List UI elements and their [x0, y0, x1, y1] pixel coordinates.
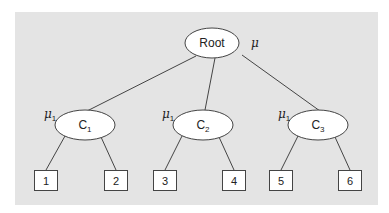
- cluster-c3-label: C3: [311, 118, 324, 134]
- tree-edges: [0, 0, 389, 213]
- leaf-node-2: 2: [104, 170, 128, 191]
- cluster-c3-subscript: 3: [320, 125, 324, 134]
- cluster-c2-subscript: 2: [205, 125, 209, 134]
- mu-symbol: μ: [44, 107, 52, 121]
- root-label: Root: [199, 36, 224, 50]
- edge-c1-1: [46, 136, 65, 170]
- leaf-node-1: 1: [34, 170, 58, 191]
- edge-c3-5: [281, 136, 298, 170]
- leaf-node-5: 5: [269, 170, 293, 191]
- cluster-c1-subscript: 1: [87, 125, 91, 134]
- edge-c2-4: [219, 137, 234, 170]
- root-param-label: μ: [251, 36, 259, 50]
- cluster-c1-label: C1: [78, 118, 91, 134]
- cluster-c1-param: μ1: [44, 107, 56, 123]
- edge-c2-3: [165, 136, 182, 170]
- mu-subscript: 1: [170, 114, 174, 123]
- cluster-c2-param: μ1: [162, 107, 174, 123]
- cluster-c3-letter: C: [311, 118, 320, 132]
- cluster-c1-letter: C: [78, 118, 87, 132]
- mu-symbol: μ: [278, 107, 286, 121]
- leaf-node-4: 4: [222, 170, 246, 191]
- cluster-c2-letter: C: [196, 118, 205, 132]
- cluster-c3-param: μ1: [278, 107, 290, 123]
- mu-subscript: 1: [286, 114, 290, 123]
- cluster-c2-label: C2: [196, 118, 209, 134]
- mu-symbol: μ: [162, 107, 170, 121]
- edge-root-c1: [87, 56, 196, 111]
- leaf-node-6: 6: [338, 170, 362, 191]
- edge-c1-2: [101, 137, 116, 170]
- edge-root-c2: [205, 58, 215, 110]
- mu-subscript: 1: [52, 114, 56, 123]
- edge-root-c3: [242, 55, 320, 111]
- leaf-node-3: 3: [153, 170, 177, 191]
- edge-c3-6: [335, 137, 350, 170]
